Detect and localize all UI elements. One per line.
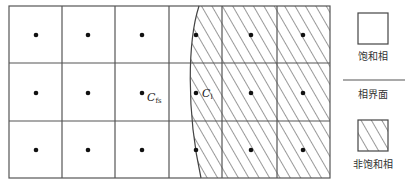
legend-saturated-swatch: [358, 13, 388, 44]
legend-saturated-label: 饱和相: [338, 48, 408, 63]
saturated-node-label: Cfs: [147, 91, 162, 105]
legend-unsaturated-label: 非饱和相: [338, 156, 408, 171]
legend-unsaturated-swatch-fill: [358, 120, 388, 151]
legend-interface-label: 相界面: [338, 86, 408, 101]
